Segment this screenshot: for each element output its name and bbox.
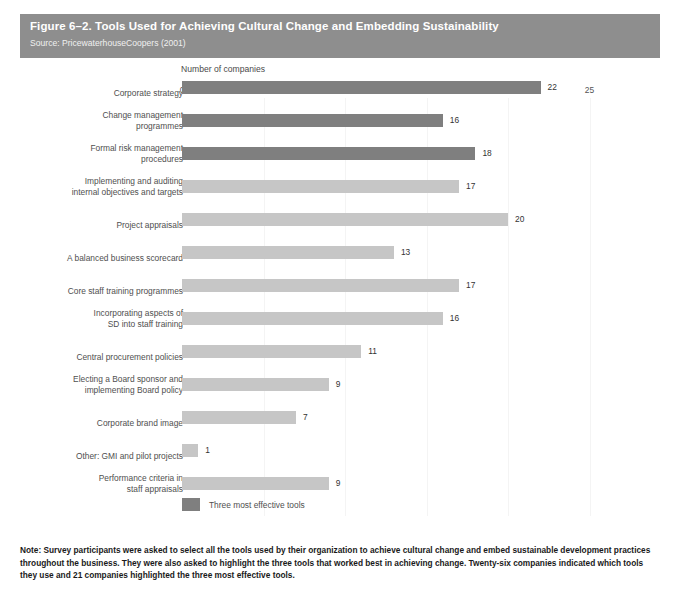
category-label: Corporate strategy [23, 88, 183, 99]
bar-13 [182, 477, 329, 490]
bar-8 [182, 312, 443, 325]
bar-value-label: 22 [548, 82, 557, 92]
chart-plot-area: Number of companies 0510152025 Corporate… [20, 58, 660, 528]
bar-9 [182, 345, 361, 358]
chart-legend: Three most effective tools [182, 498, 305, 511]
legend-swatch-effective [182, 498, 200, 511]
chart-row: Corporate brand image7 [20, 403, 660, 436]
figure-title: Figure 6–2. Tools Used for Achieving Cul… [30, 20, 499, 32]
chart-row: Formal risk managementprocedures18 [20, 139, 660, 172]
category-label: Corporate brand image [23, 418, 183, 429]
bar-value-label: 16 [450, 313, 459, 323]
bar-7 [182, 279, 459, 292]
chart-row: Performance criteria instaff appraisals9 [20, 469, 660, 502]
chart-row: Corporate strategy22 [20, 73, 660, 106]
bar-3 [182, 147, 475, 160]
bar-value-label: 9 [336, 478, 341, 488]
chart-row: Project appraisals20 [20, 205, 660, 238]
legend-label-effective: Three most effective tools [209, 500, 305, 510]
category-label: Incorporating aspects ofSD into staff tr… [23, 308, 183, 329]
chart-row: Electing a Board sponsor andimplementing… [20, 370, 660, 403]
category-label: Central procurement policies [23, 352, 183, 363]
bar-12 [182, 444, 198, 457]
bar-value-label: 20 [515, 214, 524, 224]
bar-1 [182, 81, 541, 94]
category-label: Performance criteria instaff appraisals [23, 473, 183, 494]
figure-header-band: Figure 6–2. Tools Used for Achieving Cul… [20, 14, 660, 58]
category-label: Electing a Board sponsor andimplementing… [23, 374, 183, 395]
chart-row: Implementing and auditinginternal object… [20, 172, 660, 205]
bar-value-label: 17 [466, 181, 475, 191]
category-label: A balanced business scorecard [23, 253, 183, 264]
category-label: Formal risk managementprocedures [23, 143, 183, 164]
chart-row: Other: GMI and pilot projects1 [20, 436, 660, 469]
bar-value-label: 11 [368, 346, 377, 356]
figure-source: Source: PricewaterhouseCoopers (2001) [30, 38, 186, 48]
chart-row: A balanced business scorecard13 [20, 238, 660, 271]
bar-10 [182, 378, 329, 391]
category-label: Implementing and auditinginternal object… [23, 176, 183, 197]
bar-11 [182, 411, 296, 424]
figure-container: Figure 6–2. Tools Used for Achieving Cul… [20, 14, 660, 598]
bar-5 [182, 213, 508, 226]
figure-note: Note: Survey participants were asked to … [20, 544, 652, 582]
chart-row: Central procurement policies11 [20, 337, 660, 370]
chart-row: Core staff training programmes17 [20, 271, 660, 304]
chart-row: Incorporating aspects ofSD into staff tr… [20, 304, 660, 337]
category-label: Other: GMI and pilot projects [23, 451, 183, 462]
category-label: Core staff training programmes [23, 286, 183, 297]
bar-6 [182, 246, 394, 259]
bar-2 [182, 114, 443, 127]
bar-value-label: 1 [205, 445, 210, 455]
category-label: Change managementprogrammes [23, 110, 183, 131]
bar-value-label: 16 [450, 115, 459, 125]
bar-value-label: 17 [466, 280, 475, 290]
category-label: Project appraisals [23, 220, 183, 231]
bar-value-label: 9 [336, 379, 341, 389]
chart-row: Change managementprogrammes16 [20, 106, 660, 139]
bar-value-label: 18 [482, 148, 491, 158]
bar-value-label: 13 [401, 247, 410, 257]
bar-value-label: 7 [303, 412, 308, 422]
bar-4 [182, 180, 459, 193]
